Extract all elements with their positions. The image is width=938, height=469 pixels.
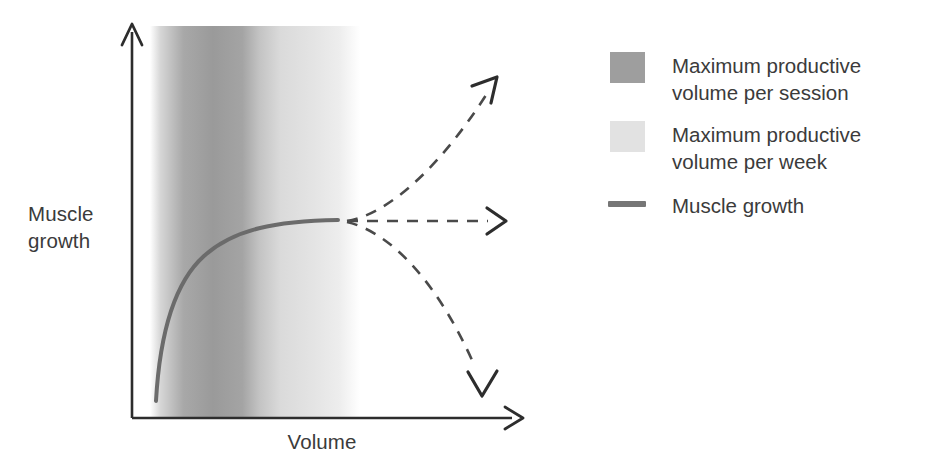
legend-key-2 bbox=[608, 121, 646, 152]
dashed-arrow-growth-down bbox=[347, 222, 497, 396]
chart-legend: Maximum productive volume per session Ma… bbox=[608, 52, 928, 233]
dashed-arrow-growth-up bbox=[347, 77, 497, 221]
legend-label-1: Maximum productive volume per session bbox=[672, 52, 861, 107]
x-axis-title: Volume bbox=[232, 428, 412, 455]
legend-swatch-max-productive-volume-per-week bbox=[610, 121, 645, 152]
legend-swatch-muscle-growth bbox=[608, 201, 646, 207]
legend-key-3 bbox=[608, 189, 646, 207]
legend-key-1 bbox=[608, 52, 646, 83]
legend-item-max-productive-volume-per-session[interactable]: Maximum productive volume per session bbox=[608, 52, 928, 107]
legend-swatch-max-productive-volume-per-session bbox=[610, 52, 645, 83]
legend-item-muscle-growth[interactable]: Muscle growth bbox=[608, 189, 928, 219]
chart-figure: Muscle growth Volume Maximum productive … bbox=[0, 0, 938, 469]
legend-label-2: Maximum productive volume per week bbox=[672, 121, 861, 176]
legend-item-max-productive-volume-per-week[interactable]: Maximum productive volume per week bbox=[608, 121, 928, 176]
legend-label-3: Muscle growth bbox=[672, 189, 804, 219]
y-axis-title: Muscle growth bbox=[28, 200, 138, 254]
